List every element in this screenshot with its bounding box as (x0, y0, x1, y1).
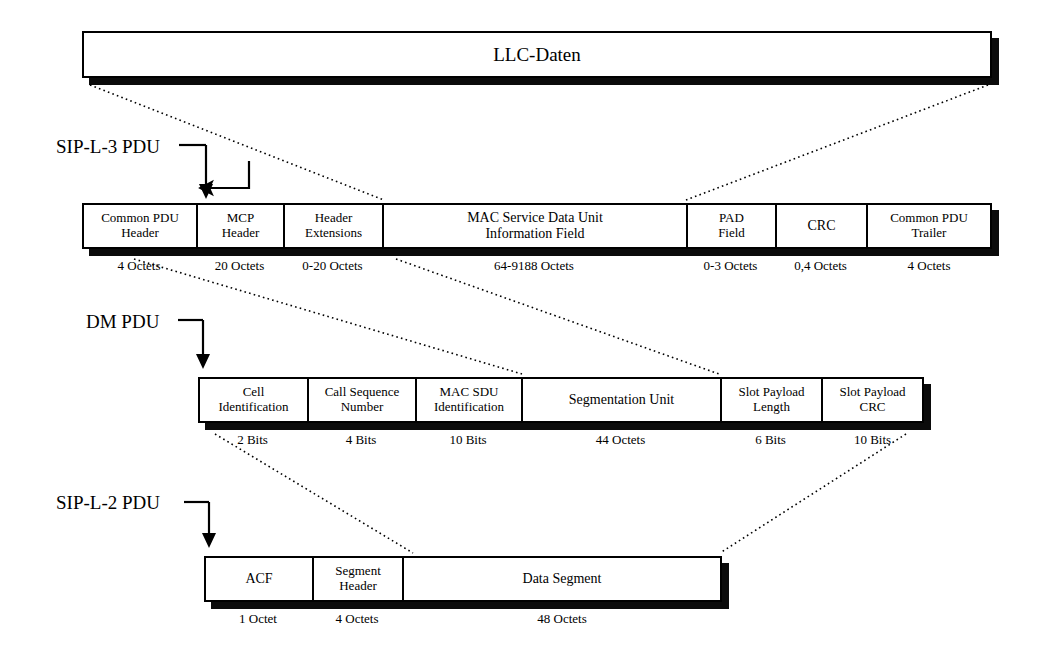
field-label-line: Cell (243, 385, 265, 400)
field-acf: ACF (206, 558, 314, 600)
size-row-sip-l2: 1 Octet 4 Octets 48 Octets (204, 611, 722, 627)
field-cell-identification: Cell Identification (200, 379, 309, 421)
field-label-line: Trailer (912, 226, 947, 241)
field-size: 10 Bits (821, 432, 924, 448)
field-mcp-header: MCP Header (198, 205, 285, 247)
field-slot-payload-length: Slot Payload Length (722, 379, 823, 421)
field-llc-daten: LLC-Daten (84, 33, 990, 76)
field-label-line: Header (339, 579, 377, 594)
field-size: 64-9188 Octets (382, 258, 686, 274)
field-size: 6 Bits (720, 432, 821, 448)
field-size: 10 Bits (415, 432, 521, 448)
field-common-pdu-trailer: Common PDU Trailer (868, 205, 990, 247)
field-segmentation-unit: Segmentation Unit (523, 379, 722, 421)
field-label-line: Identification (218, 400, 288, 415)
field-crc: CRC (777, 205, 868, 247)
field-mac-service-data-unit: MAC Service Data Unit Information Field (384, 205, 688, 247)
field-size: 48 Octets (402, 611, 722, 627)
field-label-line: Data Segment (523, 571, 602, 587)
field-slot-payload-crc: Slot Payload CRC (823, 379, 922, 421)
pdu-row-dm-pdu: Cell Identification Call Sequence Number… (198, 377, 924, 423)
field-size: 20 Octets (196, 258, 283, 274)
field-label-line: Common PDU (101, 211, 179, 226)
expansion-connector-sip-l3-to-dm (134, 259, 719, 374)
size-row-dm-pdu: 2 Bits 4 Bits 10 Bits 44 Octets 6 Bits 1… (198, 432, 924, 448)
field-size: 4 Octets (866, 258, 992, 274)
row-label-sip-l2: SIP-L-2 PDU (56, 492, 160, 514)
field-size: 1 Octet (204, 611, 312, 627)
field-label-line: Field (718, 226, 745, 241)
pointer-arrow-dm-pdu (178, 320, 210, 369)
pointer-arrow-sip-l2 (184, 502, 216, 548)
field-label-line: CRC (807, 218, 835, 234)
field-data-segment: Data Segment (404, 558, 720, 600)
expansion-connector-llc-to-sip-l3 (90, 85, 988, 200)
field-size: 0-3 Octets (686, 258, 775, 274)
field-size: 4 Bits (307, 432, 415, 448)
field-label-line: Extensions (305, 226, 362, 241)
pdu-row-llc: LLC-Daten (82, 31, 992, 78)
field-size: 44 Octets (521, 432, 720, 448)
field-label-line: Call Sequence (325, 385, 400, 400)
field-label-line: Information Field (485, 226, 584, 242)
field-label-line: MCP (227, 211, 254, 226)
field-label-line: Slot Payload (839, 385, 905, 400)
field-label-line: Header (222, 226, 260, 241)
field-label-line: Slot Payload (738, 385, 804, 400)
field-label-line: MAC SDU (440, 385, 499, 400)
field-label-line: Segmentation Unit (569, 392, 674, 408)
size-row-sip-l3: 4 Octets 20 Octets 0-20 Octets 64-9188 O… (82, 258, 992, 274)
row-label-dm-pdu: DM PDU (86, 311, 159, 333)
field-label-line: ACF (245, 571, 272, 587)
field-segment-header: Segment Header (314, 558, 404, 600)
field-label-line: MAC Service Data Unit (467, 210, 603, 226)
field-label-line: CRC (859, 400, 885, 415)
field-size: 0,4 Octets (775, 258, 866, 274)
pdu-row-sip-l2: ACF Segment Header Data Segment (204, 556, 722, 602)
field-call-sequence-number: Call Sequence Number (309, 379, 417, 421)
diagram-canvas: LLC-Daten SIP-L-3 PDU Common PDU Header … (0, 0, 1052, 666)
field-label-line: Header (121, 226, 159, 241)
field-size: 0-20 Octets (283, 258, 382, 274)
field-size: 4 Octets (82, 258, 196, 274)
row-label-sip-l3: SIP-L-3 PDU (56, 136, 160, 158)
field-label-line: Segment (335, 564, 381, 579)
pdu-row-sip-l3: Common PDU Header MCP Header Header Exte… (82, 203, 992, 249)
field-label-line: Number (341, 400, 384, 415)
field-label-line: Length (753, 400, 790, 415)
field-size: 2 Bits (198, 432, 307, 448)
field-label-line: Identification (434, 400, 504, 415)
field-label-line: LLC-Daten (493, 44, 581, 65)
expansion-connector-dm-to-sip-l2 (215, 434, 906, 553)
field-label-line: Header (315, 211, 353, 226)
field-header-extensions: Header Extensions (285, 205, 384, 247)
field-label-line: Common PDU (890, 211, 968, 226)
field-label-line: PAD (719, 211, 744, 226)
field-mac-sdu-identification: MAC SDU Identification (417, 379, 523, 421)
field-common-pdu-header: Common PDU Header (84, 205, 198, 247)
field-size: 4 Octets (312, 611, 402, 627)
field-pad-field: PAD Field (688, 205, 777, 247)
pointer-arrow-sip-l3 (179, 145, 249, 199)
